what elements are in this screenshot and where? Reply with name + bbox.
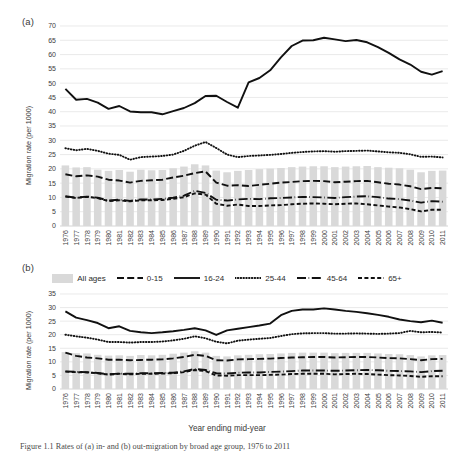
svg-text:1995: 1995	[267, 230, 274, 246]
svg-text:55: 55	[48, 65, 56, 72]
svg-text:2005: 2005	[375, 393, 382, 409]
svg-text:2010: 2010	[428, 230, 435, 246]
svg-text:1979: 1979	[94, 393, 101, 409]
svg-text:2001: 2001	[331, 230, 338, 246]
legend-item-45-64[interactable]: 45-64	[297, 274, 347, 283]
svg-text:1982: 1982	[127, 230, 134, 246]
svg-text:1998: 1998	[299, 393, 306, 409]
svg-text:1978: 1978	[84, 230, 91, 246]
svg-text:40: 40	[48, 108, 56, 115]
legend-item-0-15[interactable]: 0-15	[117, 274, 163, 283]
svg-text:1985: 1985	[159, 393, 166, 409]
svg-text:2003: 2003	[353, 393, 360, 409]
svg-text:1989: 1989	[202, 230, 209, 246]
svg-text:30: 30	[48, 137, 56, 144]
svg-text:1990: 1990	[213, 393, 220, 409]
svg-text:5: 5	[52, 372, 56, 379]
svg-text:1976: 1976	[62, 393, 69, 409]
figure-caption: Figure 1.1 Rates of (a) in- and (b) out-…	[20, 441, 438, 453]
chart-legend: All ages0-1516-2425-4445-6465+	[0, 269, 454, 287]
svg-text:2002: 2002	[342, 230, 349, 246]
svg-text:1987: 1987	[181, 230, 188, 246]
svg-text:2006: 2006	[385, 230, 392, 246]
svg-text:1990: 1990	[213, 230, 220, 246]
svg-text:1992: 1992	[234, 393, 241, 409]
svg-text:2000: 2000	[321, 393, 328, 409]
svg-text:1981: 1981	[116, 230, 123, 246]
svg-text:2008: 2008	[407, 393, 414, 409]
svg-text:1994: 1994	[256, 393, 263, 409]
svg-text:1984: 1984	[148, 230, 155, 246]
svg-text:1998: 1998	[299, 230, 306, 246]
svg-text:2009: 2009	[418, 230, 425, 246]
svg-text:65: 65	[48, 37, 56, 44]
svg-text:10: 10	[48, 194, 56, 201]
legend-label: 16-24	[204, 274, 224, 283]
panel-a-chart: 0510152025303540455055606570197619771978…	[0, 20, 454, 268]
svg-text:1985: 1985	[159, 230, 166, 246]
svg-text:1976: 1976	[62, 230, 69, 246]
svg-text:25: 25	[48, 318, 56, 325]
legend-swatch-all-ages	[52, 274, 73, 283]
svg-text:2011: 2011	[439, 230, 446, 245]
svg-text:2001: 2001	[331, 393, 338, 409]
svg-text:2007: 2007	[396, 393, 403, 409]
svg-text:1988: 1988	[191, 393, 198, 409]
svg-text:2004: 2004	[364, 393, 371, 409]
svg-text:2010: 2010	[428, 393, 435, 409]
svg-text:2007: 2007	[396, 230, 403, 246]
svg-text:10: 10	[48, 358, 56, 365]
svg-text:1991: 1991	[224, 230, 231, 246]
legend-swatch-45-64	[297, 274, 323, 282]
svg-text:50: 50	[48, 80, 56, 87]
svg-text:25: 25	[48, 151, 56, 158]
legend-swatch-65	[358, 274, 384, 282]
svg-text:1980: 1980	[105, 393, 112, 409]
svg-text:1995: 1995	[267, 393, 274, 409]
svg-text:2005: 2005	[375, 230, 382, 246]
svg-text:2009: 2009	[418, 393, 425, 409]
svg-text:30: 30	[48, 304, 56, 311]
legend-item-all-ages[interactable]: All ages	[52, 274, 105, 283]
legend-swatch-25-44	[235, 274, 261, 282]
svg-text:1996: 1996	[278, 230, 285, 246]
svg-text:2008: 2008	[407, 230, 414, 246]
svg-text:15: 15	[48, 180, 56, 187]
legend-label: 45-64	[327, 274, 347, 283]
svg-text:1988: 1988	[191, 230, 198, 246]
svg-text:20: 20	[48, 331, 56, 338]
svg-text:1989: 1989	[202, 393, 209, 409]
svg-text:1983: 1983	[137, 393, 144, 409]
legend-item-65[interactable]: 65+	[358, 274, 402, 283]
svg-text:2006: 2006	[385, 393, 392, 409]
svg-text:1978: 1978	[84, 393, 91, 409]
x-axis-label: Year ending mid-year	[0, 424, 454, 433]
svg-text:20: 20	[48, 165, 56, 172]
legend-swatch-16-24	[174, 274, 200, 282]
svg-text:0: 0	[52, 385, 56, 392]
svg-text:1999: 1999	[310, 230, 317, 246]
svg-text:1982: 1982	[127, 393, 134, 409]
panel-b-chart: 0510152025303519761977197819791980198119…	[0, 288, 454, 413]
legend-item-25-44[interactable]: 25-44	[235, 274, 285, 283]
svg-text:1996: 1996	[278, 393, 285, 409]
svg-text:1983: 1983	[137, 230, 144, 246]
svg-text:1979: 1979	[94, 230, 101, 246]
svg-text:70: 70	[48, 22, 56, 29]
svg-text:1977: 1977	[73, 393, 80, 409]
panel-b-label: (b)	[22, 262, 34, 273]
svg-text:1994: 1994	[256, 230, 263, 246]
svg-text:1986: 1986	[170, 230, 177, 246]
legend-item-16-24[interactable]: 16-24	[174, 274, 224, 283]
svg-text:1992: 1992	[234, 230, 241, 246]
svg-text:0: 0	[52, 222, 56, 229]
svg-text:35: 35	[48, 122, 56, 129]
svg-text:35: 35	[48, 290, 56, 297]
legend-swatch-0-15	[117, 274, 143, 282]
svg-text:2003: 2003	[353, 230, 360, 246]
svg-text:2004: 2004	[364, 230, 371, 246]
svg-text:1980: 1980	[105, 230, 112, 246]
svg-text:60: 60	[48, 51, 56, 58]
svg-text:2011: 2011	[439, 393, 446, 408]
legend-label: All ages	[77, 274, 105, 283]
